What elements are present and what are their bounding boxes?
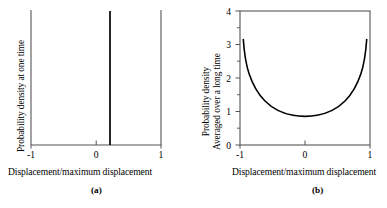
panel-b-yticklabel-0: 0: [226, 140, 231, 151]
panel-b-yticklabel-4: 4: [226, 6, 231, 17]
panel-a-tag: (a): [91, 185, 102, 195]
panel-b-xticklabel-0: -1: [236, 149, 244, 160]
panel-a-xticklabel-2: 1: [159, 149, 164, 160]
panel-b-yticklabel-3: 3: [226, 39, 231, 50]
panel-b-y-axis-label-line-1: Probability density: [201, 53, 212, 150]
panel-b-axes-frame: [240, 11, 370, 145]
panel-b-y-axis-label-line-2: Averaged over a long time: [212, 53, 223, 150]
panel-a-y-axis-label: Probability density at one time: [16, 40, 27, 152]
panel-b-yticklabel-1: 1: [226, 106, 231, 117]
panel-b-x-axis-label: Displacement/maximum displacement: [232, 166, 376, 177]
panel-b: 0 1 2 3 4 -1 0 1 Probability density Ave…: [193, 0, 387, 208]
panel-b-tag: (b): [312, 185, 323, 195]
panel-a-x-axis-label: Displacement/maximum displacement: [8, 166, 152, 177]
panel-b-yticklabel-2: 2: [226, 73, 231, 84]
panel-a: -1 0 1 Probability density at one time D…: [0, 0, 193, 208]
panel-b-probability-curve: [243, 40, 366, 117]
panel-a-y-axis-label-line-1: Probability density at one time: [16, 40, 27, 152]
panel-b-y-axis-label: Probability density Averaged over a long…: [201, 53, 222, 150]
panel-a-xticklabel-1: 0: [94, 149, 99, 160]
panel-a-xticklabel-0: -1: [27, 149, 35, 160]
panel-b-xticklabel-1: 0: [303, 149, 308, 160]
figure-two-panel-probability-density: -1 0 1 Probability density at one time D…: [0, 0, 387, 208]
panel-b-xticklabel-2: 1: [368, 149, 373, 160]
